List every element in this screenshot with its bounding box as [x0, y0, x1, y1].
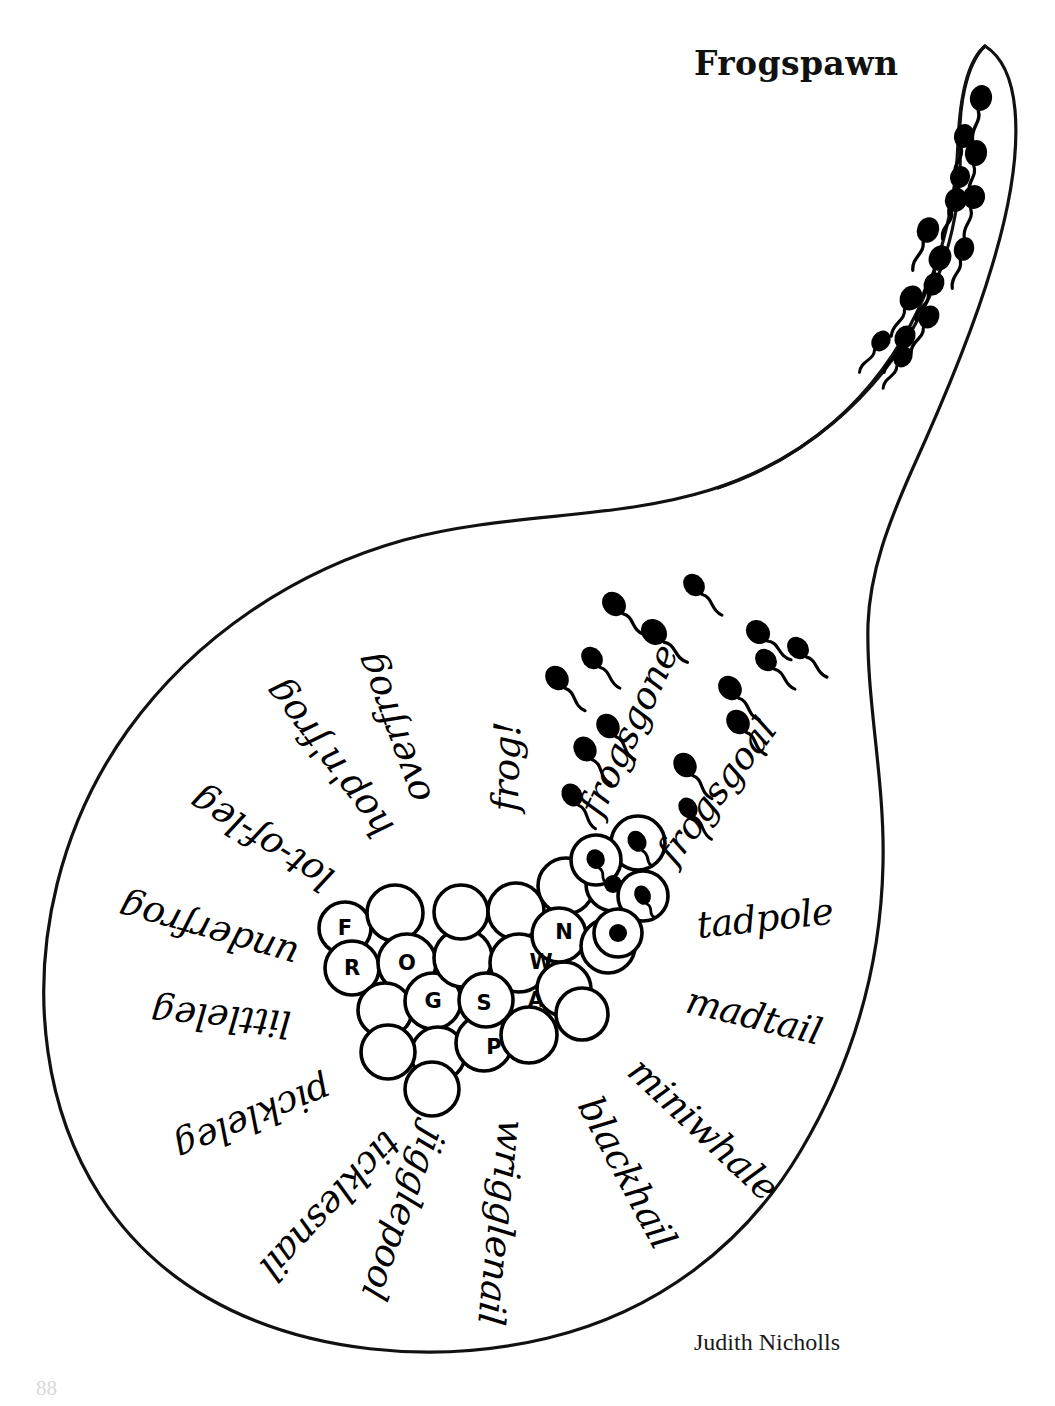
poem-author: Judith Nicholls	[694, 1329, 840, 1356]
egg	[361, 1025, 415, 1079]
page-title: Frogspawn	[694, 44, 898, 83]
poem-word-frog-exclaim: frog!	[484, 721, 530, 812]
egg	[556, 988, 608, 1040]
frogspawn-illustration	[0, 0, 1055, 1406]
poem-page: Frogspawn Judith Nicholls 88 overfrog ho…	[0, 0, 1055, 1406]
egg	[367, 885, 423, 941]
egg	[405, 1062, 459, 1116]
egg	[434, 885, 488, 939]
page-number: 88	[36, 1376, 57, 1401]
egg	[532, 908, 586, 962]
egg	[459, 973, 513, 1027]
